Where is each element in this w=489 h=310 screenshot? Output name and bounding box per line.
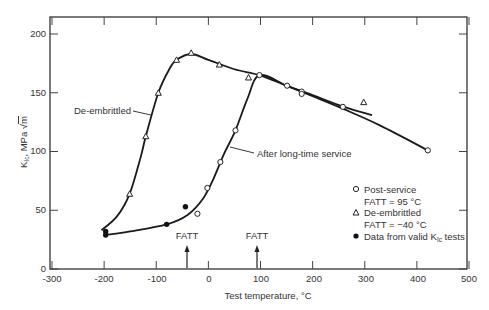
legend-deembrittled-line2: FATT = −40 °C bbox=[364, 219, 427, 230]
svg-text:KIc, MPa √m: KIc, MPa √m bbox=[18, 116, 30, 168]
x-tick-label: 300 bbox=[358, 273, 374, 284]
filled-circle-marker bbox=[183, 204, 188, 209]
x-tick-label: 400 bbox=[410, 273, 426, 284]
de-embrittled-curve bbox=[102, 54, 373, 230]
fatt-left-label: FATT bbox=[176, 230, 199, 241]
open-circle-marker bbox=[284, 83, 289, 88]
legend-deembrittled-line1: De-embrittled bbox=[364, 207, 421, 218]
open-circle-marker bbox=[195, 211, 200, 216]
open-circle-marker bbox=[425, 148, 430, 153]
open-triangle-marker bbox=[246, 74, 252, 80]
service-leader-line bbox=[230, 147, 254, 153]
filled-circle-icon bbox=[353, 233, 358, 238]
legend-valid-tests: Data from valid KIc tests bbox=[364, 231, 465, 243]
legend: Post-service FATT = 95 °C De-embrittled … bbox=[353, 184, 465, 243]
open-circle-marker bbox=[340, 104, 345, 109]
open-circle-marker bbox=[233, 128, 238, 133]
x-tick-labels: -300 -200 -100 0 100 200 300 400 500 bbox=[42, 273, 476, 284]
open-triangle-marker bbox=[143, 133, 149, 139]
x-tick-label: -200 bbox=[94, 273, 113, 284]
open-triangle-marker bbox=[155, 90, 161, 96]
open-triangle-marker bbox=[127, 191, 133, 197]
y-tick-labels: 0 50 100 150 200 bbox=[30, 28, 46, 274]
x-tick-label: 500 bbox=[461, 273, 477, 284]
filled-circle-marker bbox=[164, 222, 169, 227]
y-tick-label: 150 bbox=[30, 87, 46, 98]
y-tick-label: 100 bbox=[30, 145, 46, 156]
y-tick-label: 0 bbox=[41, 263, 46, 274]
open-triangle-marker bbox=[188, 50, 194, 56]
open-triangle-marker bbox=[361, 99, 367, 105]
x-tick-label: 100 bbox=[253, 273, 269, 284]
x-tick-label: -300 bbox=[42, 273, 61, 284]
open-circle-marker bbox=[218, 159, 223, 164]
fatt-right-label: FATT bbox=[246, 230, 269, 241]
x-axis-title: Test temperature, °C bbox=[224, 290, 311, 301]
x-tick-label: -100 bbox=[147, 273, 166, 284]
open-circle-icon bbox=[353, 186, 358, 191]
legend-post-service-line1: Post-service bbox=[364, 184, 416, 195]
open-triangle-icon bbox=[353, 210, 359, 216]
legend-post-service-line2: FATT = 95 °C bbox=[364, 196, 421, 207]
y-axis-title-unit: , MPa bbox=[18, 129, 29, 156]
y-tick-label: 200 bbox=[30, 28, 46, 39]
legend-valid-rest: tests bbox=[442, 231, 465, 242]
legend-valid-main: Data from valid K bbox=[364, 231, 438, 242]
deembrittled-curve-label: De-embrittled bbox=[74, 105, 131, 116]
filled-circle-marker bbox=[103, 229, 108, 234]
service-curve-label: After long-time service bbox=[257, 148, 352, 159]
kic-vs-temperature-chart: -300 -200 -100 0 100 200 300 400 500 0 5… bbox=[0, 0, 489, 310]
x-tick-label: 200 bbox=[306, 273, 322, 284]
y-axis-title: KIc, MPa √m bbox=[18, 116, 30, 168]
y-axis-title-root: m bbox=[18, 116, 29, 124]
deembrittled-leader-line bbox=[133, 111, 151, 115]
open-circle-marker bbox=[205, 185, 210, 190]
x-tick-label: 0 bbox=[206, 273, 211, 284]
open-circle-marker bbox=[299, 91, 304, 96]
fatt-right-arrowhead-icon bbox=[255, 245, 260, 252]
y-tick-label: 50 bbox=[35, 204, 46, 215]
fatt-left-arrowhead-icon bbox=[185, 245, 190, 252]
open-circle-marker bbox=[257, 73, 262, 78]
